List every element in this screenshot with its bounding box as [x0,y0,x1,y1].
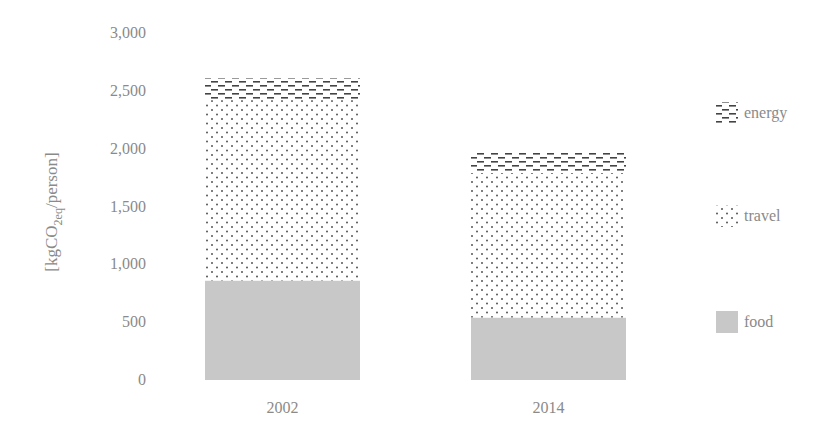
legend-label: energy [744,104,787,122]
segment-energy [205,78,360,100]
y-axis-ticks: 05001,0001,5002,0002,5003,000 [110,24,146,388]
legend-label: travel [744,207,781,224]
x-tick-label: 2014 [533,399,565,416]
bars [205,78,626,380]
segment-travel [205,100,360,280]
y-axis-label: [kgCO2eq/person] [42,152,65,271]
legend-item-food: food [716,311,773,333]
legend-swatch-energy [716,102,738,124]
stacked-bar-chart: 05001,0001,5002,0002,5003,000 [kgCO2eq/p… [0,0,840,438]
y-tick-label: 2,000 [110,140,146,157]
bar-2002 [205,78,360,380]
y-tick-label: 1,500 [110,198,146,215]
y-tick-label: 0 [138,371,146,388]
legend-item-travel: travel [716,205,781,227]
segment-energy [471,152,626,173]
segment-travel [471,173,626,318]
segment-food [471,318,626,380]
legend: energytravelfood [716,102,787,333]
x-axis-ticks: 20022014 [267,399,565,416]
y-tick-label: 1,000 [110,255,146,272]
bar-2014 [471,152,626,380]
legend-label: food [744,313,773,330]
y-tick-label: 2,500 [110,82,146,99]
legend-swatch-food [716,311,738,333]
segment-food [205,281,360,380]
y-tick-label: 3,000 [110,24,146,41]
x-tick-label: 2002 [267,399,299,416]
y-tick-label: 500 [122,313,146,330]
legend-swatch-travel [716,205,738,227]
legend-item-energy: energy [716,102,787,124]
y-axis-title: [kgCO2eq/person] [42,152,65,271]
